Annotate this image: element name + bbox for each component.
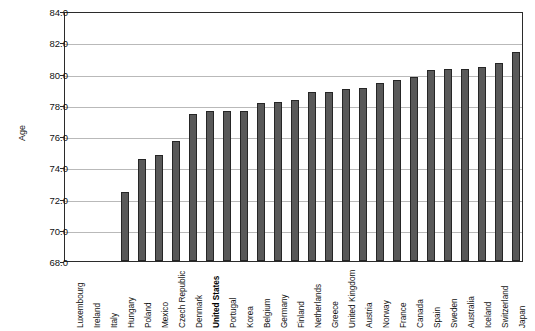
- bar: [461, 69, 469, 261]
- x-tick-label: Australia: [467, 296, 476, 328]
- x-tick-label: Austria: [365, 303, 374, 328]
- x-tick-label: Korea: [246, 306, 255, 328]
- x-tick-label: France: [399, 303, 408, 328]
- x-tick-label: Ireland: [93, 303, 102, 328]
- bar: [206, 111, 214, 261]
- x-tick-label: Germany: [280, 294, 289, 328]
- bar: [223, 111, 231, 261]
- x-tick-label: Belgium: [263, 298, 272, 328]
- x-tick-label: Poland: [144, 303, 153, 329]
- plot-area: [64, 12, 523, 262]
- y-tick-mark: [60, 200, 64, 201]
- x-tick-label: Hungary: [127, 297, 136, 328]
- x-tick-label: Canada: [416, 299, 425, 328]
- x-tick-label: Luxembourg: [76, 282, 85, 328]
- x-tick-label: Japan: [518, 306, 527, 328]
- x-tick-label: Mexico: [161, 302, 170, 328]
- y-tick-mark: [60, 12, 64, 13]
- bar: [342, 89, 350, 261]
- bar: [512, 52, 520, 261]
- bar: [444, 69, 452, 261]
- x-tick-label: Denmark: [195, 295, 204, 328]
- bar: [155, 155, 163, 261]
- bar: [240, 111, 248, 261]
- gridline: [65, 44, 522, 45]
- x-tick-label: Iceland: [484, 302, 493, 328]
- x-tick-label: Netherlands: [314, 284, 323, 328]
- bar: [410, 77, 418, 261]
- x-tick-label: Italy: [110, 313, 119, 328]
- x-tick-label: Greece: [331, 301, 340, 328]
- x-tick-label: Portugal: [229, 298, 238, 329]
- y-tick-mark: [60, 231, 64, 232]
- x-axis-labels: LuxembourgIrelandItalyHungaryPolandMexic…: [64, 262, 523, 331]
- bar: [308, 92, 316, 261]
- life-expectancy-bar-chart: Age LuxembourgIrelandItalyHungaryPolandM…: [0, 0, 535, 331]
- bar: [274, 102, 282, 261]
- bar: [359, 88, 367, 261]
- gridline: [65, 76, 522, 77]
- bar: [172, 141, 180, 261]
- x-tick-label: United Kingdom: [348, 270, 357, 328]
- y-tick-mark: [60, 43, 64, 44]
- x-tick-label: United States: [212, 276, 221, 328]
- bar: [376, 83, 384, 261]
- x-tick-label: Finland: [297, 301, 306, 328]
- y-tick-mark: [60, 262, 64, 263]
- bar: [121, 192, 129, 261]
- x-tick-label: Czech Republic: [178, 271, 187, 328]
- x-tick-label: Sweden: [450, 298, 459, 328]
- y-tick-mark: [60, 106, 64, 107]
- bar: [427, 70, 435, 261]
- x-tick-label: Norway: [382, 300, 391, 328]
- bar: [495, 63, 503, 261]
- bar: [393, 80, 401, 261]
- bar: [257, 103, 265, 261]
- bar: [138, 159, 146, 261]
- bar: [189, 114, 197, 261]
- bar: [478, 67, 486, 261]
- bar: [325, 92, 333, 261]
- y-tick-mark: [60, 137, 64, 138]
- bar: [291, 100, 299, 261]
- x-tick-label: Switzerland: [501, 286, 510, 328]
- y-tick-mark: [60, 168, 64, 169]
- y-tick-mark: [60, 75, 64, 76]
- x-tick-label: Spain: [433, 307, 442, 328]
